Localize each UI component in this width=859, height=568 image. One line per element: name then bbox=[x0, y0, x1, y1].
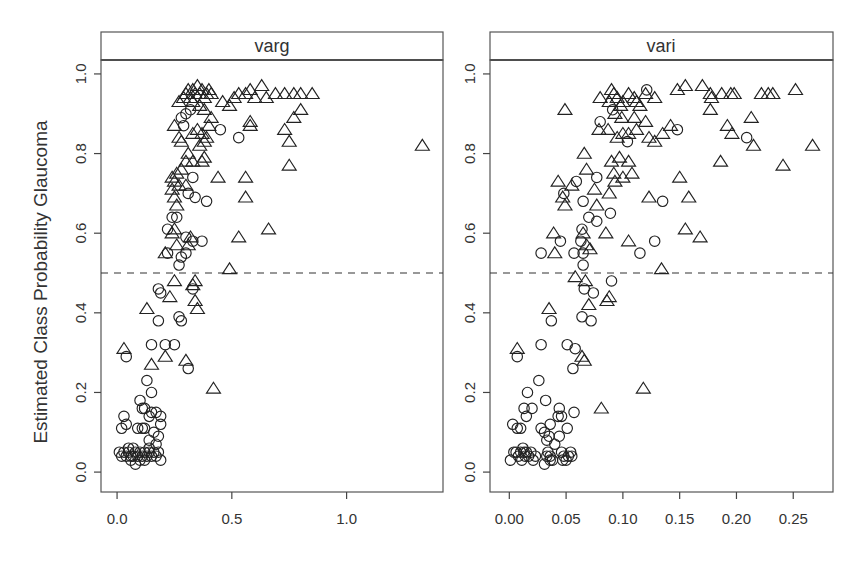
circle-marker bbox=[522, 387, 532, 397]
triangle-marker bbox=[190, 303, 204, 314]
triangle-marker bbox=[165, 171, 179, 182]
panel-frame-vari bbox=[490, 60, 833, 492]
triangle-marker bbox=[575, 350, 589, 361]
y-tick-label: 0.8 bbox=[461, 143, 478, 164]
triangle-marker bbox=[682, 191, 696, 202]
x-axis-vari: 0.000.050.100.150.200.25 bbox=[495, 492, 808, 527]
circle-marker bbox=[635, 248, 645, 258]
x-tick-label: 0.25 bbox=[779, 510, 808, 527]
triangle-marker bbox=[262, 223, 276, 234]
y-tick-label: 0.0 bbox=[461, 462, 478, 483]
triangle-marker bbox=[627, 112, 641, 123]
triangle-marker bbox=[577, 147, 591, 158]
triangle-marker bbox=[268, 88, 282, 99]
circle-marker bbox=[536, 339, 546, 349]
triangle-marker bbox=[599, 227, 613, 238]
y-tick-label: 0.6 bbox=[72, 223, 89, 244]
circle-marker bbox=[657, 196, 667, 206]
circle-marker bbox=[167, 212, 177, 222]
circle-marker bbox=[534, 375, 544, 385]
x-tick-label: 0.20 bbox=[722, 510, 751, 527]
triangle-marker bbox=[211, 171, 225, 182]
circle-marker bbox=[146, 387, 156, 397]
x-tick-label: 0.05 bbox=[551, 510, 580, 527]
y-tick-label: 0.4 bbox=[461, 302, 478, 323]
triangle-marker bbox=[202, 119, 216, 130]
circle-marker bbox=[234, 132, 244, 142]
triangle-marker bbox=[172, 179, 186, 190]
triangle-marker bbox=[542, 303, 556, 314]
triangle-marker bbox=[282, 159, 296, 170]
triangle-marker bbox=[693, 231, 707, 242]
x-tick-label: 0.5 bbox=[221, 510, 242, 527]
circle-marker bbox=[174, 312, 184, 322]
triangle-marker bbox=[158, 350, 172, 361]
circle-marker bbox=[649, 236, 659, 246]
triangle-marker bbox=[193, 139, 207, 150]
triangle-marker bbox=[548, 247, 562, 258]
triangle-marker bbox=[558, 199, 572, 210]
triangle-marker bbox=[655, 263, 669, 274]
x-tick-label: 0.10 bbox=[608, 510, 637, 527]
circle-marker bbox=[530, 451, 540, 461]
triangle-marker bbox=[255, 80, 269, 91]
circle-marker bbox=[578, 260, 588, 270]
scatter-plot-canvas: Estimated Class Probability Glaucoma var… bbox=[0, 0, 859, 568]
circle-marker bbox=[570, 343, 580, 353]
circle-marker bbox=[188, 172, 198, 182]
triangle-marker bbox=[206, 382, 220, 393]
circle-marker bbox=[155, 419, 165, 429]
triangle-marker bbox=[558, 104, 572, 115]
triangle-marker bbox=[415, 139, 429, 150]
circle-marker bbox=[586, 316, 596, 326]
triangle-marker bbox=[636, 382, 650, 393]
triangle-marker bbox=[703, 104, 717, 115]
circle-marker bbox=[584, 212, 594, 222]
y-axis: 0.00.20.40.60.81.0 bbox=[461, 64, 490, 483]
circle-marker bbox=[181, 109, 191, 119]
triangle-marker bbox=[656, 127, 670, 138]
circle-marker bbox=[546, 316, 556, 326]
circle-marker bbox=[215, 124, 225, 134]
triangle-marker bbox=[204, 112, 218, 123]
triangle-marker bbox=[580, 163, 594, 174]
x-tick-label: 1.0 bbox=[336, 510, 357, 527]
triangle-marker bbox=[165, 183, 179, 194]
triangle-marker bbox=[714, 155, 728, 166]
triangle-marker bbox=[243, 116, 257, 127]
triangle-marker bbox=[144, 358, 158, 369]
triangle-marker bbox=[625, 167, 639, 178]
circle-marker bbox=[540, 395, 550, 405]
triangle-marker bbox=[642, 191, 656, 202]
circle-marker bbox=[142, 375, 152, 385]
triangle-marker bbox=[188, 295, 202, 306]
triangle-marker bbox=[197, 151, 211, 162]
circle-marker bbox=[508, 419, 518, 429]
triangle-marker bbox=[239, 88, 253, 99]
triangle-marker bbox=[744, 112, 758, 123]
circle-marker bbox=[137, 423, 147, 433]
x-axis-varg: 0.00.51.0 bbox=[107, 492, 357, 527]
triangle-marker bbox=[568, 271, 582, 282]
circle-marker bbox=[176, 316, 186, 326]
triangle-marker bbox=[287, 88, 301, 99]
triangle-marker bbox=[170, 199, 184, 210]
triangle-marker bbox=[673, 171, 687, 182]
circle-marker bbox=[116, 423, 126, 433]
triangle-marker bbox=[695, 80, 709, 91]
triangle-marker bbox=[761, 88, 775, 99]
triangle-marker bbox=[594, 402, 608, 413]
x-tick-label: 0.00 bbox=[495, 510, 524, 527]
triangle-marker bbox=[806, 139, 820, 150]
triangle-marker bbox=[789, 84, 803, 95]
triangle-marker bbox=[167, 191, 181, 202]
triangle-marker bbox=[600, 295, 614, 306]
y-tick-label: 0.2 bbox=[461, 382, 478, 403]
triangle-marker bbox=[186, 84, 200, 95]
triangle-marker bbox=[223, 100, 237, 111]
triangle-marker bbox=[678, 223, 692, 234]
triangle-marker bbox=[602, 291, 616, 302]
triangle-marker bbox=[167, 275, 181, 286]
triangle-marker bbox=[577, 354, 591, 365]
data-points-vari bbox=[505, 80, 819, 470]
